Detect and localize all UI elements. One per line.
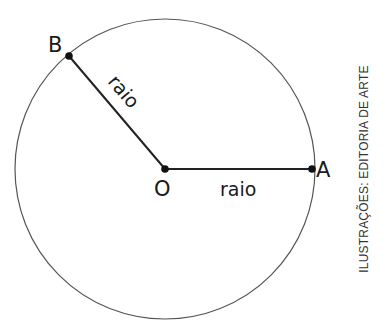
point-a-label: A [316,158,331,182]
radius-oa-label: raio [220,178,256,200]
illustration-credit: ILUSTRAÇÕES: EDITORIA DE ARTE [357,65,371,272]
point-a-dot [308,165,316,173]
radius-ob-label: raio [104,70,144,112]
point-b-dot [65,52,73,60]
circle-diagram: O A B raio raio [0,0,386,331]
point-o-dot [161,165,169,173]
point-b-label: B [48,33,62,57]
point-o-label: O [154,177,171,201]
